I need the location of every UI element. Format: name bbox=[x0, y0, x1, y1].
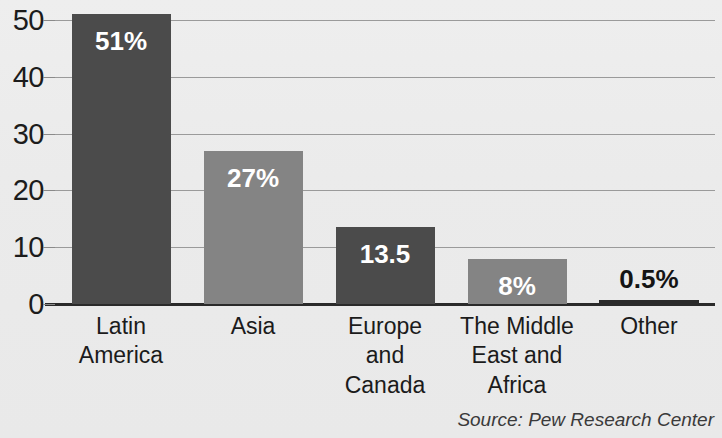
y-tick-mark bbox=[43, 247, 55, 248]
category-label-line: Asia bbox=[187, 312, 319, 341]
category-label-line: Latin bbox=[55, 312, 187, 341]
category-label-line: East and bbox=[451, 341, 583, 370]
x-axis-category-label: Asia bbox=[187, 312, 319, 341]
bar: 8% bbox=[468, 259, 567, 304]
bar: 51% bbox=[72, 14, 171, 304]
y-axis-tick-label: 40 bbox=[0, 62, 44, 91]
category-label-line: America bbox=[55, 341, 187, 370]
bar-value-label: 51% bbox=[72, 28, 171, 54]
y-axis-tick-label: 30 bbox=[0, 119, 44, 148]
bar: 27% bbox=[204, 151, 303, 304]
y-tick-mark bbox=[43, 134, 55, 135]
category-label-line: Other bbox=[583, 312, 715, 341]
x-axis-category-label: Other bbox=[583, 312, 715, 341]
category-label-row: LatinAmericaAsiaEuropeandCanadaThe Middl… bbox=[55, 312, 715, 408]
category-label-line: Africa bbox=[451, 371, 583, 400]
source-annotation: Source: Pew Research Center bbox=[457, 409, 714, 431]
bar-value-label: 27% bbox=[204, 165, 303, 191]
x-axis-category-label: LatinAmerica bbox=[55, 312, 187, 371]
y-axis: 01020304050 bbox=[0, 20, 44, 304]
plot-area: 51%27%13.58%0.5% bbox=[55, 20, 715, 304]
category-label-line: Canada bbox=[319, 371, 451, 400]
y-axis-tick-label: 50 bbox=[0, 6, 44, 35]
y-axis-tick-label: 10 bbox=[0, 233, 44, 262]
bar-chart: 01020304050 51%27%13.58%0.5% LatinAmeric… bbox=[0, 0, 722, 438]
x-axis-category-label: EuropeandCanada bbox=[319, 312, 451, 400]
bar: 0.5% bbox=[599, 300, 699, 304]
y-tick-mark bbox=[43, 304, 55, 305]
y-axis-tick-label: 0 bbox=[0, 290, 44, 319]
y-tick-mark bbox=[43, 190, 55, 191]
y-tick-mark bbox=[43, 77, 55, 78]
category-label-line: Europe bbox=[319, 312, 451, 341]
bar-value-label: 13.5 bbox=[336, 241, 435, 267]
y-tick-mark bbox=[43, 20, 55, 21]
category-label-line: The Middle bbox=[451, 312, 583, 341]
bar-value-label: 0.5% bbox=[599, 266, 699, 292]
category-label-line: and bbox=[319, 341, 451, 370]
y-axis-tick-label: 20 bbox=[0, 176, 44, 205]
bar-value-label: 8% bbox=[468, 273, 567, 299]
bar: 13.5 bbox=[336, 227, 435, 304]
x-axis-category-label: The MiddleEast andAfrica bbox=[451, 312, 583, 400]
